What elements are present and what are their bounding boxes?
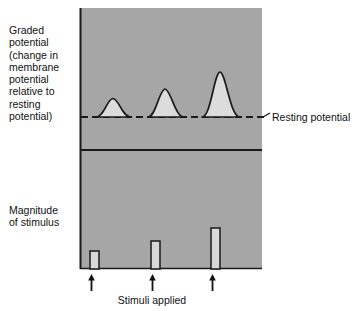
- stimulus-bar-1: [90, 251, 99, 269]
- plot-panel-background: [80, 8, 262, 269]
- stimulus-arrow-3: [209, 274, 216, 291]
- graded-potential-figure: Graded potential (change in membrane pot…: [0, 0, 360, 311]
- stimulus-arrow-1: [88, 274, 95, 291]
- resting-potential-leader-line: [263, 113, 270, 117]
- stimulus-bar-2: [151, 241, 160, 269]
- stimulus-bar-3: [211, 228, 220, 269]
- stimulus-arrow-2: [149, 274, 156, 291]
- plot-canvas: [0, 0, 360, 311]
